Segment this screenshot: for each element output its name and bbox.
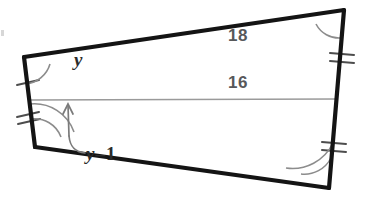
tick-right-upper-2 [330,61,354,63]
label-angle-number: 1 [106,143,116,164]
edge-lower-diagonal [35,147,329,188]
label-side-16: 16 [228,74,248,91]
label-side-18: 18 [228,27,248,44]
label-angle-operator: – [94,143,106,164]
tick-left-lower-2 [18,119,40,124]
segment-horizontal-16 [29,99,336,100]
leader-arrow-group [63,104,85,153]
edge-upper-diagonal [24,10,344,57]
tick-marks-group [17,53,354,152]
label-side-y: y [74,50,82,69]
arc-top-right [316,24,341,38]
diagram-canvas [0,0,366,199]
edge-left-vertical [24,57,35,147]
label-angle-y-minus-1: y–1 [86,144,115,163]
geometry-figure: 18 16 y y–1 [0,0,366,199]
edge-artifact [1,30,4,36]
leader-shaft [68,105,69,136]
tick-left-lower-1 [17,112,39,117]
